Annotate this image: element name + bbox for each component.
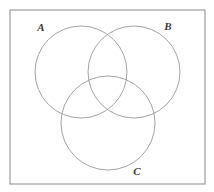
venn-diagram-canvas: A B C (0, 0, 214, 192)
set-label-a: A (36, 21, 44, 33)
diagram-frame (10, 10, 205, 184)
set-label-c: C (133, 165, 141, 177)
venn-diagram-figure: A B C (0, 0, 214, 192)
set-label-b: B (163, 20, 171, 32)
